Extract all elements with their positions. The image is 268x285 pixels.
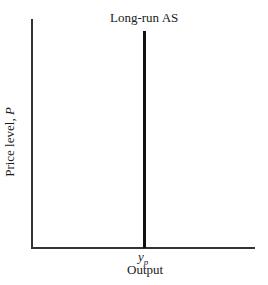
curve-label: Long-run AS	[110, 10, 178, 26]
y-axis-variable: P	[2, 107, 17, 115]
long-run-as-line	[143, 31, 146, 248]
y-axis-label: Price level, P	[2, 107, 18, 177]
y-axis-label-text: Price level,	[2, 115, 17, 177]
x-axis-label: Output	[127, 262, 163, 278]
y-axis	[31, 19, 33, 249]
